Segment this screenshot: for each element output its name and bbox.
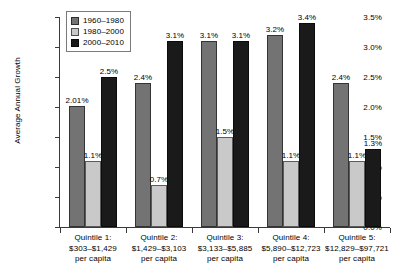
x-category-label-line: per capita <box>126 254 192 265</box>
bar <box>233 41 249 227</box>
legend-item-label: 1980–2000 <box>83 27 124 36</box>
bar-group: 2.4%0.7%3.1% <box>126 17 192 227</box>
x-category-label-line: Quintile 5: <box>324 233 390 244</box>
bar <box>135 83 151 227</box>
bar-value-label: 3.1% <box>156 31 194 40</box>
bar-group: 2.4%1.1%1.3% <box>324 17 390 227</box>
bar-value-label: 2.5% <box>90 67 128 76</box>
bar-value-label: 1.3% <box>354 139 392 148</box>
bar-value-label: 2.4% <box>322 73 360 82</box>
legend-item: 1960–1980 <box>71 15 124 26</box>
x-category-label-line: $1,429–$3,103 <box>126 244 192 255</box>
bar-value-label: 3.1% <box>222 31 260 40</box>
x-category-label: Quintile 1:$303–$1,429per capita <box>60 233 126 265</box>
x-category-label-line: per capita <box>258 254 324 265</box>
legend-swatch-icon <box>71 39 79 47</box>
legend-item: 1980–2000 <box>71 26 124 37</box>
bar <box>69 106 85 227</box>
bar-value-label: 3.2% <box>256 25 294 34</box>
bar <box>217 137 233 227</box>
bar <box>283 161 299 227</box>
x-category-label-line: $12,829–$97,721 <box>324 244 390 255</box>
x-category-label-line: $3,133–$5,885 <box>192 244 258 255</box>
bar <box>267 35 283 227</box>
bar-value-label: 2.01% <box>58 96 96 105</box>
y-axis-title: Average Annual Growth <box>13 26 22 176</box>
x-category-label: Quintile 3:$3,133–$5,885per capita <box>192 233 258 265</box>
x-category-label-line: $5,890–$12,723 <box>258 244 324 255</box>
x-category-label-line: per capita <box>324 254 390 265</box>
x-category-label-line: Quintile 2: <box>126 233 192 244</box>
legend-swatch-icon <box>71 28 79 36</box>
bar <box>365 149 381 227</box>
bar <box>349 161 365 227</box>
x-category-label: Quintile 2:$1,429–$3,103per capita <box>126 233 192 265</box>
bar-group: 3.1%1.5%3.1% <box>192 17 258 227</box>
x-category-label-line: per capita <box>60 254 126 265</box>
bar <box>167 41 183 227</box>
bar <box>299 23 315 227</box>
x-category-label: Quintile 5:$12,829–$97,721per capita <box>324 233 390 265</box>
bar-chart-figure: Average Annual Growth 0.0%0.5%1.0%1.5%2.… <box>0 0 410 276</box>
legend-item-label: 2000–2010 <box>83 38 124 47</box>
bar-value-label: 2.4% <box>124 73 162 82</box>
legend-item-label: 1960–1980 <box>83 16 124 25</box>
bar-group: 3.2%1.1%3.4% <box>258 17 324 227</box>
chart-legend: 1960–19801980–20002000–2010 <box>66 11 131 52</box>
bar <box>101 77 117 227</box>
bar-value-label: 3.4% <box>288 13 326 22</box>
x-category-label: Quintile 4:$5,890–$12,723per capita <box>258 233 324 265</box>
x-tick-mark <box>390 228 391 233</box>
x-category-label-line: per capita <box>192 254 258 265</box>
x-category-label-line: Quintile 4: <box>258 233 324 244</box>
x-category-label-line: $303–$1,429 <box>60 244 126 255</box>
x-category-label-line: Quintile 3: <box>192 233 258 244</box>
legend-item: 2000–2010 <box>71 37 124 48</box>
x-category-label-line: Quintile 1: <box>60 233 126 244</box>
bar <box>85 161 101 227</box>
bar <box>151 185 167 227</box>
legend-swatch-icon <box>71 17 79 25</box>
x-axis-line <box>59 227 390 228</box>
